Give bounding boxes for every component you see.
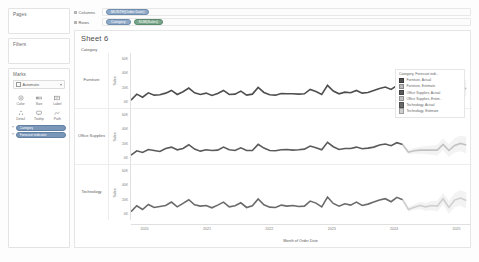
filters-card-title: Filters bbox=[9, 39, 69, 49]
row-header-office-supplies: Office Supplies bbox=[75, 109, 109, 164]
x-tick-label: 2024 bbox=[390, 227, 398, 231]
columns-pill-label: MONTH(Order Date) bbox=[111, 10, 144, 14]
columns-pill-month-order-date[interactable]: MONTH(Order Date) bbox=[106, 9, 149, 15]
pages-card-title: Pages bbox=[9, 9, 69, 19]
y-axis-furniture: Sales 60K40K20K0K bbox=[109, 53, 131, 108]
row-header-furniture: Furniture bbox=[75, 53, 109, 108]
marks-color-button[interactable]: Color bbox=[12, 92, 29, 107]
color-icon bbox=[17, 94, 25, 101]
marks-size-label: Size bbox=[36, 102, 43, 106]
chevron-down-icon bbox=[60, 84, 62, 86]
columns-shelf-label: Columns bbox=[79, 10, 96, 15]
legend[interactable]: Category, Forecast indi.. Furniture, Act… bbox=[395, 69, 465, 118]
legend-item[interactable]: Office Supplies, Estim.. bbox=[399, 96, 461, 101]
marks-detail-button[interactable]: Detail bbox=[12, 108, 29, 123]
grip-icon bbox=[74, 21, 77, 24]
marks-path-button[interactable]: Path bbox=[49, 108, 66, 123]
x-tick-label: 2025 bbox=[452, 227, 460, 231]
y-tick-label: 20K bbox=[122, 198, 128, 202]
plot-svg bbox=[131, 165, 472, 220]
legend-item[interactable]: Technology, Estimate bbox=[399, 108, 461, 113]
panel-technology: Technology Sales 60K40K20K0K bbox=[75, 165, 472, 220]
y-axis-title: Sales bbox=[113, 188, 117, 197]
x-tick-label: 2020 bbox=[141, 227, 149, 231]
rows-shelf-well[interactable]: Category SUM(Sales) bbox=[102, 18, 471, 26]
filters-card[interactable]: Filters bbox=[8, 38, 70, 64]
y-tick-label: 0K bbox=[124, 100, 128, 104]
row-header-furniture-label: Furniture bbox=[83, 78, 99, 83]
worksheet-view: Sheet 6 Category Furniture Sales 60K40K2… bbox=[74, 30, 471, 248]
legend-item-label: Office Supplies, Estim.. bbox=[406, 97, 441, 101]
mark-type-dropdown[interactable]: Automatic bbox=[13, 80, 65, 89]
legend-item-label: Technology, Actual bbox=[406, 103, 434, 107]
legend-item[interactable]: Furniture, Actual bbox=[399, 78, 461, 83]
marks-pill-list: ≡ Category ≡ Forecast indicator bbox=[9, 125, 69, 138]
plot-technology[interactable] bbox=[131, 165, 472, 220]
shelf-area: Columns MONTH(Order Date) Rows Category … bbox=[74, 8, 471, 28]
marks-pill-forecast-indicator[interactable]: Forecast indicator bbox=[16, 132, 66, 138]
size-icon bbox=[35, 94, 43, 101]
marks-size-button[interactable]: Size bbox=[30, 92, 47, 107]
marks-button-grid: Color Size Label bbox=[9, 92, 69, 122]
legend-item-label: Office Supplies, Actual bbox=[406, 91, 440, 95]
page-title: Sheet 6 bbox=[75, 31, 470, 43]
legend-item[interactable]: Furniture, Estimate bbox=[399, 84, 461, 89]
legend-title: Category, Forecast indi.. bbox=[399, 72, 461, 76]
y-axis-title: Sales bbox=[113, 132, 117, 141]
y-tick-label: 60K bbox=[122, 57, 128, 61]
rows-pill-category[interactable]: Category bbox=[106, 19, 131, 25]
columns-shelf-label-group: Columns bbox=[74, 10, 102, 15]
rows-pill-category-label: Category bbox=[111, 20, 126, 24]
label-icon bbox=[53, 94, 61, 101]
x-axis: Month of Order Date 20202021202220232024… bbox=[131, 224, 470, 247]
y-tick-label: 0K bbox=[124, 156, 128, 160]
x-tick-label: 2022 bbox=[265, 227, 273, 231]
y-tick-label: 20K bbox=[122, 142, 128, 146]
columns-shelf-well[interactable]: MONTH(Order Date) bbox=[102, 8, 471, 16]
marks-tooltip-label: Tooltip bbox=[34, 117, 44, 121]
y-tick-label: 20K bbox=[122, 86, 128, 90]
legend-swatch bbox=[399, 84, 404, 89]
row-header-technology: Technology bbox=[75, 165, 109, 220]
legend-swatch bbox=[399, 108, 404, 113]
row-header-technology-label: Technology bbox=[81, 190, 101, 195]
marks-detail-label: Detail bbox=[16, 117, 25, 121]
columns-shelf[interactable]: Columns MONTH(Order Date) bbox=[74, 8, 471, 16]
legend-item[interactable]: Technology, Actual bbox=[399, 102, 461, 107]
legend-item-label: Furniture, Actual bbox=[406, 78, 431, 82]
detail-icon bbox=[17, 110, 25, 117]
tooltip-icon bbox=[35, 110, 43, 117]
rows-shelf[interactable]: Rows Category SUM(Sales) bbox=[74, 18, 471, 26]
line-actual bbox=[131, 142, 403, 155]
marks-card-title: Marks bbox=[9, 69, 69, 79]
legend-swatch bbox=[399, 90, 404, 95]
rows-pill-sum-sales[interactable]: SUM(Sales) bbox=[134, 19, 163, 25]
x-axis-title: Month of Order Date bbox=[283, 239, 318, 243]
y-axis-technology: Sales 60K40K20K0K bbox=[109, 165, 131, 220]
marks-pill-row[interactable]: ≡ Category bbox=[12, 125, 66, 131]
pages-card[interactable]: Pages bbox=[8, 8, 70, 34]
legend-item[interactable]: Office Supplies, Actual bbox=[399, 90, 461, 95]
grip-icon bbox=[74, 11, 77, 14]
y-tick-label: 40K bbox=[122, 127, 128, 131]
marks-pill-category[interactable]: Category bbox=[16, 125, 66, 131]
marks-pill-row[interactable]: ≡ Forecast indicator bbox=[12, 132, 66, 138]
marks-label-button[interactable]: Label bbox=[49, 92, 66, 107]
abc-icon: ≡ bbox=[12, 126, 14, 130]
panel-header-category: Category bbox=[81, 47, 97, 52]
x-tick-label: 2023 bbox=[328, 227, 336, 231]
legend-swatch bbox=[399, 96, 404, 101]
marks-tooltip-button[interactable]: Tooltip bbox=[30, 108, 47, 123]
y-tick-label: 40K bbox=[122, 71, 128, 75]
abc-icon: ≡ bbox=[12, 133, 14, 137]
mark-type-icon bbox=[16, 82, 21, 87]
rows-shelf-label-group: Rows bbox=[74, 20, 102, 25]
tableau-worksheet: Pages Filters Marks Automatic Color bbox=[0, 0, 479, 262]
marks-card[interactable]: Marks Automatic Color bbox=[8, 68, 70, 248]
row-header-office-supplies-label: Office Supplies bbox=[78, 134, 105, 139]
legend-swatch bbox=[399, 78, 404, 83]
y-tick-label: 40K bbox=[122, 183, 128, 187]
legend-item-label: Technology, Estimate bbox=[406, 109, 438, 113]
legend-swatch bbox=[399, 102, 404, 107]
left-sidebar: Pages Filters Marks Automatic Color bbox=[8, 8, 70, 248]
